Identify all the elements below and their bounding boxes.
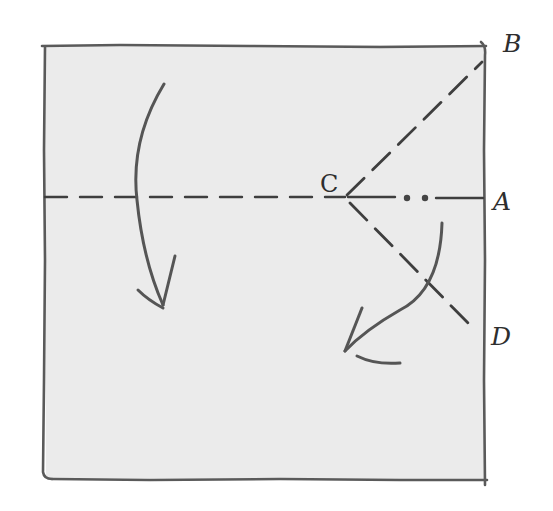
label-D: D: [490, 322, 511, 351]
crease-dot-1: [404, 195, 410, 201]
paper-bottom-edge: [52, 479, 487, 480]
paper-fill: [44, 45, 485, 480]
label-B: B: [502, 29, 521, 58]
label-C: C: [320, 170, 338, 198]
paper-square: [42, 42, 487, 485]
label-A: A: [491, 187, 511, 216]
crease-dot-2: [422, 195, 428, 201]
folding-diagram: C A B D: [0, 0, 553, 511]
